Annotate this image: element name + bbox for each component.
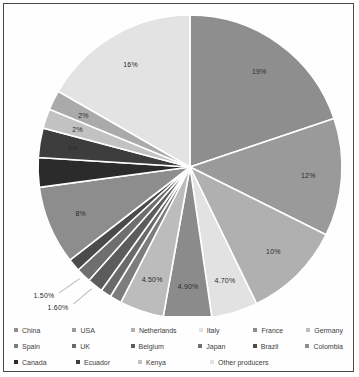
legend-item-label: Germany <box>314 327 343 334</box>
legend-item-label: Kenya <box>146 359 166 366</box>
legend-swatch-icon <box>198 344 202 348</box>
legend-swatch-icon <box>131 344 135 348</box>
legend-item-canada[interactable]: Canada <box>14 359 76 366</box>
legend-swatch-icon <box>138 360 142 364</box>
legend-item-label: Other producers <box>218 359 269 366</box>
legend-item-france[interactable]: France <box>253 327 306 334</box>
pie-chart-svg <box>4 4 353 316</box>
legend-swatch-icon <box>131 328 135 332</box>
legend-swatch-icon <box>253 328 257 332</box>
chart-legend: ChinaUSANetherlandsItalyFranceGermany Sp… <box>4 316 353 371</box>
legend-item-germany[interactable]: Germany <box>306 327 343 334</box>
legend-item-colombia[interactable]: Colombia <box>305 343 343 350</box>
legend-item-label: Canada <box>22 359 47 366</box>
legend-item-ecuador[interactable]: Ecuador <box>76 359 138 366</box>
legend-item-kenya[interactable]: Kenya <box>138 359 210 366</box>
legend-item-italy[interactable]: Italy <box>199 327 254 334</box>
legend-item-label: Colombia <box>313 343 343 350</box>
legend-item-spain[interactable]: Spain <box>14 343 72 350</box>
legend-item-label: France <box>261 327 283 334</box>
pie-chart-plot: 19%12%10%4.70%4.90%4.50%1.60%1.50%8%3%2%… <box>4 4 353 316</box>
legend-swatch-icon <box>306 328 310 332</box>
legend-item-label: Brazil <box>261 343 279 350</box>
legend-item-uk[interactable]: UK <box>72 343 130 350</box>
legend-item-label: Japan <box>206 343 225 350</box>
legend-row: SpainUKBelgiumJapanBrazilColombia <box>14 338 343 354</box>
legend-row: CanadaEcuadorKenyaOther producers <box>14 354 343 370</box>
legend-item-label: Netherlands <box>139 327 177 334</box>
legend-swatch-icon <box>210 360 214 364</box>
legend-swatch-icon <box>76 360 80 364</box>
legend-item-label: UK <box>80 343 90 350</box>
legend-item-label: Ecuador <box>84 359 110 366</box>
legend-item-other-producers[interactable]: Other producers <box>210 359 268 366</box>
legend-item-label: China <box>22 327 40 334</box>
legend-item-japan[interactable]: Japan <box>198 343 253 350</box>
legend-swatch-icon <box>199 328 203 332</box>
legend-item-label: USA <box>80 327 94 334</box>
legend-item-china[interactable]: China <box>14 327 72 334</box>
chart-figure: 19%12%10%4.70%4.90%4.50%1.60%1.50%8%3%2%… <box>3 3 354 372</box>
legend-swatch-icon <box>72 328 76 332</box>
legend-swatch-icon <box>14 328 18 332</box>
legend-row: ChinaUSANetherlandsItalyFranceGermany <box>14 322 343 338</box>
legend-item-usa[interactable]: USA <box>72 327 130 334</box>
legend-item-netherlands[interactable]: Netherlands <box>131 327 199 334</box>
legend-item-label: Belgium <box>139 343 164 350</box>
legend-swatch-icon <box>72 344 76 348</box>
legend-swatch-icon <box>253 344 257 348</box>
legend-swatch-icon <box>14 344 18 348</box>
legend-item-label: Italy <box>207 327 220 334</box>
legend-swatch-icon <box>14 360 18 364</box>
legend-swatch-icon <box>305 344 309 348</box>
legend-item-belgium[interactable]: Belgium <box>131 343 199 350</box>
legend-item-label: Spain <box>22 343 40 350</box>
legend-item-brazil[interactable]: Brazil <box>253 343 306 350</box>
